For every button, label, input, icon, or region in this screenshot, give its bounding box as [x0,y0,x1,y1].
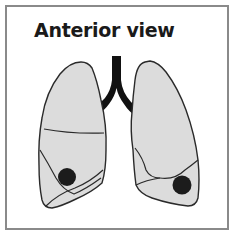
left-lung-nodule [173,176,192,195]
lungs-diagram [0,0,238,236]
right-lung-outline [39,62,106,208]
left-lung [131,61,199,206]
right-lung [39,62,106,208]
right-lung-nodule [58,168,76,186]
